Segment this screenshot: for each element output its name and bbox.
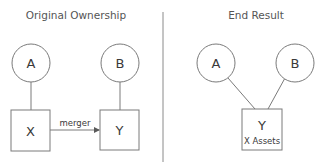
owner-label-a: A xyxy=(27,56,36,71)
panel-original-ownership: Original Ownership A B X Y merger xyxy=(11,9,139,151)
owner-label-b: B xyxy=(116,56,125,71)
company-node-x: X xyxy=(11,110,50,151)
company-node-y-result: Y X Assets xyxy=(242,109,282,150)
panel-title-end-result: End Result xyxy=(228,9,284,21)
company-node-y: Y xyxy=(100,110,139,150)
company-label-y: Y xyxy=(115,123,124,138)
merger-label: merger xyxy=(60,118,91,128)
ownership-edge-b-y xyxy=(268,78,285,109)
ownership-edge-a-y xyxy=(228,78,255,109)
owner-node-b: B xyxy=(101,44,139,82)
company-label-x: X xyxy=(26,124,35,139)
owner-label-b-result: B xyxy=(291,56,300,71)
panel-end-result: End Result A B Y X Assets xyxy=(197,9,314,150)
owner-node-b-result: B xyxy=(276,44,314,82)
panel-title-original: Original Ownership xyxy=(26,9,127,21)
owner-node-a-result: A xyxy=(197,44,235,82)
company-label-y-result: Y xyxy=(257,118,266,133)
owner-label-a-result: A xyxy=(212,56,221,71)
company-sublabel-x-assets: X Assets xyxy=(244,136,281,146)
ownership-diagram: Original Ownership A B X Y merger xyxy=(0,0,331,166)
owner-node-a: A xyxy=(12,44,50,82)
